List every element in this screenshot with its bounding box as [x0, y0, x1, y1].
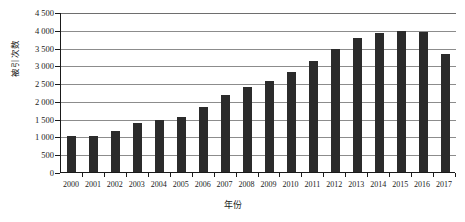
bar [243, 87, 252, 172]
bar [265, 81, 274, 172]
x-axis-tick-mark [192, 173, 193, 177]
x-axis-tick-mark [455, 173, 456, 177]
y-axis-tick-mark [55, 173, 60, 174]
x-axis-tick-mark [301, 173, 302, 177]
y-axis-tick-label: 0 [10, 169, 54, 178]
bar [287, 72, 296, 172]
y-axis-tick-label: 1 000 [10, 133, 54, 142]
y-axis-tick-label: 500 [10, 151, 54, 160]
x-axis-title: 年份 [0, 198, 465, 211]
y-axis-tick-label: 3 500 [10, 45, 54, 54]
bar [133, 123, 142, 172]
x-axis-tick-mark [279, 173, 280, 177]
x-axis-tick-mark [389, 173, 390, 177]
bar [331, 49, 340, 172]
x-axis-tick-mark [236, 173, 237, 177]
x-axis-tick-mark [170, 173, 171, 177]
x-axis-tick-mark [214, 173, 215, 177]
y-axis-tick-label: 2 000 [10, 98, 54, 107]
bar [353, 38, 362, 172]
bar [419, 32, 428, 172]
bar [89, 136, 98, 172]
bar [309, 61, 318, 172]
bar [441, 54, 450, 172]
bar-chart: 被引次数 05001 0001 5002 0002 5003 0003 5004… [0, 0, 465, 222]
x-axis-tick-mark [104, 173, 105, 177]
x-axis-tick-mark [258, 173, 259, 177]
bar [67, 136, 76, 172]
x-axis-tick-mark [433, 173, 434, 177]
bar [397, 31, 406, 172]
x-axis-tick-mark [345, 173, 346, 177]
bar [375, 33, 384, 172]
x-axis-tick-mark [82, 173, 83, 177]
y-axis-tick-label: 2 500 [10, 80, 54, 89]
bar [155, 120, 164, 172]
x-axis-tick-mark [323, 173, 324, 177]
y-axis-tick-label: 1 500 [10, 116, 54, 125]
x-axis-tick-mark [367, 173, 368, 177]
x-axis-tick-mark [126, 173, 127, 177]
y-axis-tick-label: 4 500 [10, 9, 54, 18]
y-axis-tick-label: 4 000 [10, 27, 54, 36]
x-axis-tick-label: 2017 [427, 180, 461, 189]
gridline [61, 13, 456, 14]
bar [199, 107, 208, 172]
y-axis-tick-label: 3 000 [10, 62, 54, 71]
bar [221, 95, 230, 172]
bar [111, 131, 120, 172]
bar [177, 117, 186, 172]
x-axis-tick-mark [148, 173, 149, 177]
x-axis-tick-mark [411, 173, 412, 177]
plot-area [60, 13, 455, 173]
